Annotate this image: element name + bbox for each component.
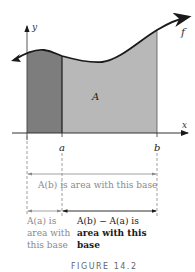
annotation-aa-line1: A(a) is [26,216,57,226]
point-b-label: b [154,142,160,153]
figure-caption: FIGURE 14.2 [71,262,137,271]
curve-label-f: f [180,26,187,39]
region-a-to-b [62,30,157,133]
area-function-diagram: y x f A a b A(b) is area with this base … [0,0,195,272]
point-a-label: a [59,142,65,153]
x-axis-label: x [182,120,187,130]
annotation-aa-line2: area with [27,228,70,238]
annotation-aa-line3: this base [27,240,68,250]
annotation-diff-line3: base [77,240,100,250]
region-0-to-a [27,51,62,133]
region-label-A: A [91,91,99,102]
annotation-ab: A(b) is area with this base [37,180,157,190]
annotation-diff-line1: A(b) − A(a) is [76,216,139,226]
y-axis-label: y [31,22,38,32]
curve-left-arrowhead [11,54,21,62]
annotation-diff-line2: area with this [77,228,146,238]
